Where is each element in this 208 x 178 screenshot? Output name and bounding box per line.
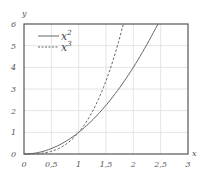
x-tick-label: 0 <box>21 160 26 169</box>
y-tick-label: 2 <box>10 107 16 116</box>
grid-lines <box>24 24 188 154</box>
y-tick-label: 6 <box>11 20 16 29</box>
x-tick-label: 0,5 <box>45 160 58 169</box>
x-axis-label: x <box>192 149 197 158</box>
x-tick-label: 2,5 <box>153 160 167 169</box>
x-tick-label: 3 <box>185 160 190 169</box>
y-tick-label: 5 <box>11 42 16 51</box>
x-tick-label: 1 <box>76 160 81 169</box>
y-tick-label: 1 <box>11 128 16 137</box>
y-tick-label: 0 <box>11 150 16 159</box>
x-tick-label: 2 <box>130 160 136 169</box>
line-chart: 00,511,522,530123456 x y x2 x3 <box>0 0 208 178</box>
legend-label-x3: x3 <box>61 40 72 54</box>
y-axis-label: y <box>21 9 27 18</box>
y-tick-label: 3 <box>11 85 16 94</box>
y-tick-label: 4 <box>10 63 16 72</box>
legend: x2 x3 <box>38 29 72 54</box>
x-tick-label: 1,5 <box>100 160 113 169</box>
